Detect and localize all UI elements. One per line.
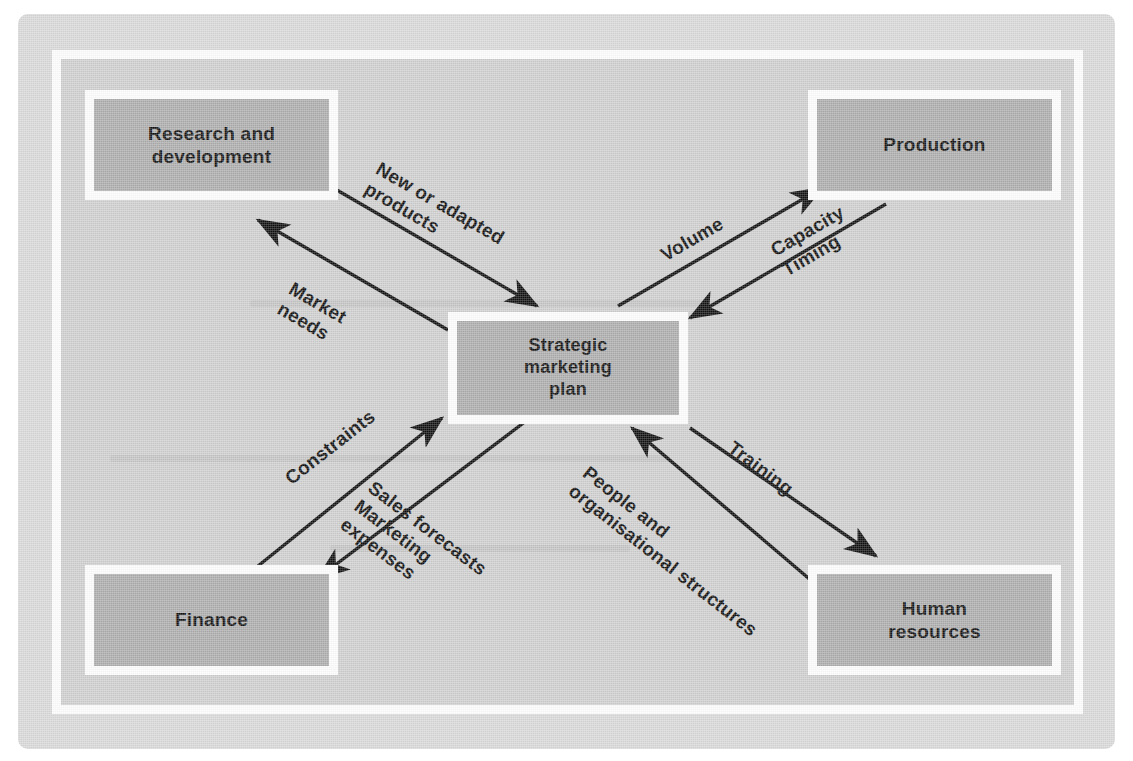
node-label-production: Production — [817, 99, 1052, 191]
node-production[interactable]: Production — [808, 90, 1061, 200]
node-finance[interactable]: Finance — [85, 565, 338, 675]
node-label-research-and-development: Research and development — [94, 99, 329, 191]
figure-canvas: Research and development Production Stra… — [0, 0, 1133, 761]
node-human-resources[interactable]: Human resources — [808, 565, 1061, 675]
node-label-finance: Finance — [94, 574, 329, 666]
node-research-and-development[interactable]: Research and development — [85, 90, 338, 200]
node-strategic-marketing-plan[interactable]: Strategic marketing plan — [448, 312, 688, 424]
node-label-human-resources: Human resources — [817, 574, 1052, 666]
node-label-strategic-marketing-plan: Strategic marketing plan — [457, 321, 679, 415]
